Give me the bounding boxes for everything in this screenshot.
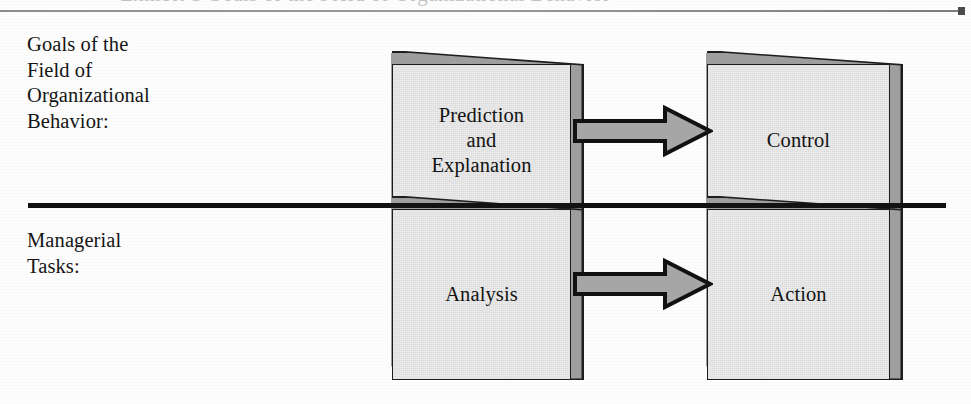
cropped-heading-text: Exhibit 1 Goals of the Field of Organiza…: [120, 0, 680, 5]
header-rule-end-dot: [958, 7, 965, 15]
box-face: Analysis: [392, 209, 571, 380]
row-label-goals: Goals of the Field of Organizational Beh…: [27, 32, 150, 134]
row-label-managerial-tasks: Managerial Tasks:: [27, 228, 121, 279]
box-face: Prediction and Explanation: [392, 64, 571, 217]
box-label-prediction-explanation: Prediction and Explanation: [431, 103, 531, 178]
box-action: Action: [707, 196, 903, 380]
header-rule: [0, 10, 963, 12]
box-label-analysis: Analysis: [445, 282, 518, 307]
arrow-prediction-to-control-icon: [573, 105, 713, 157]
arrow-analysis-to-action-icon: [573, 258, 713, 310]
box-control: Control: [707, 51, 903, 217]
box-prediction-explanation: Prediction and Explanation: [392, 51, 584, 217]
box-face: Action: [707, 209, 890, 380]
box-label-action: Action: [770, 282, 826, 307]
middle-divider: [28, 203, 946, 208]
box-label-control: Control: [767, 128, 830, 153]
figure-page: Exhibit 1 Goals of the Field of Organiza…: [0, 0, 971, 404]
box-face: Control: [707, 64, 890, 217]
cropped-heading-remnant: Exhibit 1 Goals of the Field of Organiza…: [120, 0, 680, 6]
box-analysis: Analysis: [392, 196, 584, 380]
